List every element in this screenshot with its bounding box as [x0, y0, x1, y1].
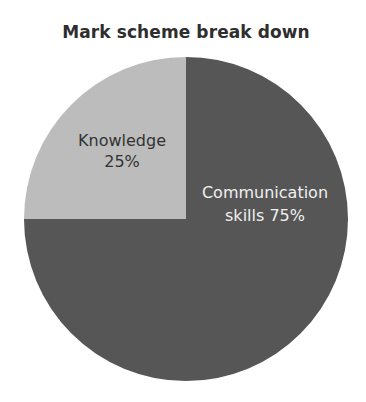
- slice-label-communication-name: Communication: [202, 183, 328, 202]
- slice-label-knowledge-value: 25%: [104, 152, 140, 171]
- pie-chart: Knowledge 25% Communication skills 75%: [0, 0, 366, 402]
- slice-label-knowledge-name: Knowledge: [78, 131, 166, 150]
- slice-label-communication-value: skills 75%: [225, 206, 305, 225]
